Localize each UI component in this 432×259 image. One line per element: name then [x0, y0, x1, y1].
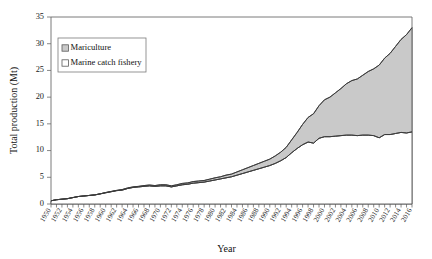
y-tick-label: 0 [40, 199, 44, 208]
y-axis-ticks: 05101520253035 [36, 12, 51, 208]
x-tick-label: 2016 [400, 207, 414, 224]
chart-container: 0510152025303519501952195419561958196019… [0, 0, 432, 259]
y-axis-title: Total production (Mt) [8, 67, 20, 154]
legend-label-mariculture: Mariculture [71, 42, 112, 52]
legend-swatch-mariculture [62, 45, 68, 51]
y-tick-label: 35 [36, 12, 44, 21]
x-axis-title: Year [217, 243, 236, 254]
legend-swatch-marine-catch-fishery [62, 60, 68, 66]
y-tick-label: 20 [36, 92, 44, 101]
x-axis-ticks: 1950195219541956195819601962196419661968… [39, 204, 414, 223]
y-tick-label: 25 [36, 65, 44, 74]
y-tick-label: 5 [40, 172, 44, 181]
y-tick-label: 30 [36, 39, 44, 48]
y-tick-label: 15 [36, 119, 44, 128]
legend: MaricultureMarine catch fishery [58, 38, 146, 72]
production-area-chart: 0510152025303519501952195419561958196019… [0, 0, 432, 259]
y-tick-label: 10 [36, 145, 44, 154]
legend-label-marine-catch-fishery: Marine catch fishery [71, 57, 143, 67]
